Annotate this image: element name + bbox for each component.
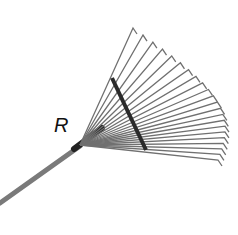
rake-figure: R — [0, 0, 238, 235]
handle — [0, 146, 80, 203]
tines — [80, 28, 229, 166]
label-r: R — [54, 114, 68, 137]
rake-icon — [0, 0, 238, 235]
